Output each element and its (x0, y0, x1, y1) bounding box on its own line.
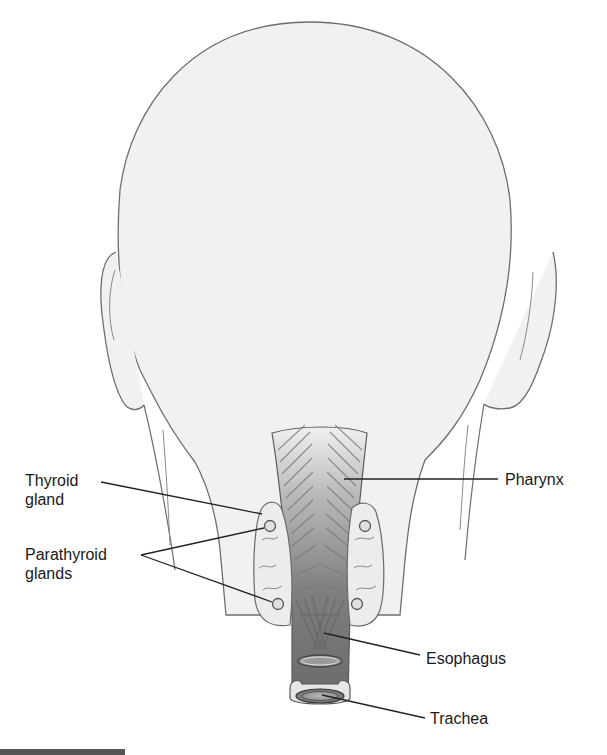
trachea-shape (290, 681, 350, 704)
bottom-edge-bar (0, 749, 125, 755)
trachea-label: Trachea (430, 709, 488, 728)
thyroid-gland-label: Thyroid gland (25, 471, 78, 509)
pharynx-label: Pharynx (505, 470, 564, 489)
esophagus-label: Esophagus (426, 649, 506, 668)
parathyroid-glands-label: Parathyroid glands (25, 545, 107, 583)
anatomy-figure: Thyroid gland Parathyroid glands Pharynx… (0, 0, 607, 755)
trachea-leader-line (322, 695, 425, 718)
head-neck-illustration (0, 0, 607, 755)
